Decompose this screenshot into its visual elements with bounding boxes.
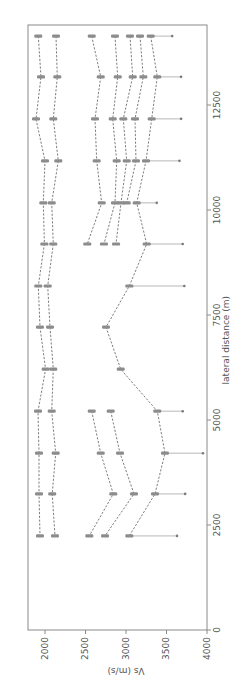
- data-point-E: [126, 35, 134, 38]
- data-point-F: [139, 75, 147, 78]
- data-point-G: [125, 534, 133, 537]
- data-point-C: [88, 35, 96, 38]
- lateral-tick-label: 12500: [212, 90, 222, 119]
- series-line-E: [116, 36, 133, 244]
- y-axis-label: Vs (m/s): [107, 666, 144, 676]
- axis-ticks: 0250050007500100001250020002500300035004…: [40, 90, 223, 659]
- range-endpoint: [183, 285, 186, 288]
- range-endpoint: [176, 535, 179, 538]
- data-point-G: [102, 326, 110, 329]
- data-point-C-south: [97, 452, 105, 455]
- data-point-C: [98, 201, 106, 204]
- range-endpoint: [184, 493, 187, 496]
- data-point-C: [91, 117, 99, 120]
- data-point-F: [132, 159, 140, 162]
- data-point-F: [136, 35, 144, 38]
- data-point-A: [36, 326, 44, 329]
- data-point-B: [49, 368, 57, 371]
- data-point-A: [41, 159, 49, 162]
- data-point-B: [49, 117, 57, 120]
- lateral-tick-label: 2500: [212, 513, 222, 536]
- lateral-tick-label: 5000: [212, 408, 222, 431]
- data-point-A: [35, 492, 43, 495]
- data-point-D: [111, 35, 119, 38]
- data-point-G: [161, 452, 169, 455]
- range-endpoint: [181, 410, 184, 413]
- data-point-A: [37, 75, 45, 78]
- range-endpoint: [181, 243, 184, 246]
- data-point-D: [100, 242, 108, 245]
- data-point-E: [119, 117, 127, 120]
- data-point-E: [129, 75, 137, 78]
- data-point-A: [40, 242, 48, 245]
- data-point-A: [34, 35, 42, 38]
- x-axis-label: lateral distance (m): [221, 296, 231, 384]
- data-point-G: [133, 201, 141, 204]
- data-point-B: [52, 35, 60, 38]
- data-point-A: [34, 284, 42, 287]
- range-endpoint: [171, 35, 174, 38]
- data-point-E: [112, 242, 120, 245]
- data-point-B: [46, 326, 54, 329]
- vs-tick-label: 3000: [121, 637, 131, 660]
- range-endpoint: [178, 160, 181, 163]
- vs-tick-label: 3500: [161, 637, 171, 660]
- range-endpoint: [180, 118, 183, 121]
- data-point-D-south: [101, 534, 109, 537]
- data-point-G: [117, 368, 125, 371]
- data-point-A: [36, 534, 44, 537]
- range-endpoint: [155, 202, 158, 205]
- data-point-B: [49, 242, 57, 245]
- series-line-C-south: [89, 411, 113, 536]
- data-point-D-south: [116, 452, 124, 455]
- data-point-A: [32, 117, 40, 120]
- data-point-D: [113, 159, 121, 162]
- lateral-tick-label: 0: [212, 627, 222, 633]
- data-point-B: [48, 201, 56, 204]
- data-point-C-south: [109, 492, 117, 495]
- vs-tick-label: 4000: [202, 637, 212, 660]
- data-point-C: [97, 75, 105, 78]
- range-endpoint: [180, 76, 183, 79]
- data-point-D-south: [130, 492, 138, 495]
- series-line-D-south: [105, 411, 134, 536]
- data-point-F: [123, 201, 131, 204]
- data-point-D-south: [107, 410, 115, 413]
- vs-tick-label: 2000: [40, 637, 50, 660]
- data-point-G: [147, 35, 155, 38]
- plot-frame: [28, 25, 207, 630]
- data-point-C-south: [88, 410, 96, 413]
- series-line-D: [104, 36, 118, 244]
- data-point-B: [51, 534, 59, 537]
- data-point-F: [131, 117, 139, 120]
- data-point-D: [114, 75, 122, 78]
- data-point-C: [93, 159, 101, 162]
- data-point-A: [42, 368, 50, 371]
- lateral-tick-label: 10000: [212, 195, 222, 224]
- data-point-G: [151, 492, 159, 495]
- data-point-E: [123, 159, 131, 162]
- data-point-A: [35, 452, 43, 455]
- data-point-C: [83, 242, 91, 245]
- chart: 0250050007500100001250020002500300035004…: [0, 0, 241, 679]
- data-point-G: [143, 242, 151, 245]
- data-point-A: [34, 410, 42, 413]
- data-point-G: [153, 75, 161, 78]
- data-point-B: [44, 284, 52, 287]
- data-point-B: [48, 492, 56, 495]
- data-point-D: [109, 117, 117, 120]
- series-line-C: [87, 36, 101, 244]
- data-point-B: [48, 410, 56, 413]
- data-point-C-south: [85, 534, 93, 537]
- data-point-B: [52, 452, 60, 455]
- range-endpoint: [202, 452, 205, 455]
- data-point-G: [148, 117, 156, 120]
- data-point-A: [39, 201, 47, 204]
- data-point-G: [142, 159, 150, 162]
- range-lines: [129, 35, 204, 537]
- vs-tick-label: 2500: [80, 637, 90, 660]
- data-point-G: [125, 284, 133, 287]
- data-point-G: [153, 410, 161, 413]
- data-point-B: [54, 159, 62, 162]
- data-point-B: [53, 75, 61, 78]
